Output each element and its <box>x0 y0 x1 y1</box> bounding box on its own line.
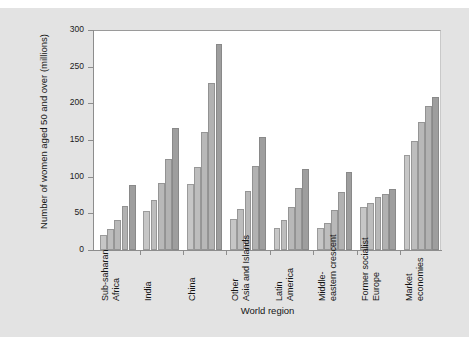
bar <box>172 128 179 250</box>
bar <box>252 166 259 250</box>
bar <box>295 188 302 250</box>
bar-group <box>187 30 223 250</box>
bar <box>107 229 114 250</box>
y-tick-label-100: 100 <box>58 172 84 181</box>
bar <box>411 141 418 250</box>
y-tick-label-wrap-300: 300 <box>56 25 84 35</box>
bar-group <box>317 30 353 250</box>
y-tick-label-wrap-200: 200 <box>56 98 84 108</box>
group-separator <box>183 250 184 255</box>
category-label-line: Middle- <box>317 234 328 301</box>
category-label-block: India <box>143 257 183 303</box>
x-axis-line <box>93 250 442 251</box>
bar <box>187 184 194 250</box>
category-label-block: LatinAmerica <box>274 257 314 303</box>
category-label: Sub-saharanAfrica <box>100 249 121 301</box>
category-label-line: Africa <box>111 249 122 301</box>
category-label: Middle-eastern crescent <box>317 234 338 301</box>
group-separator <box>270 250 271 255</box>
bar <box>194 167 201 250</box>
x-axis-title: World region <box>94 305 441 316</box>
bar <box>302 169 309 250</box>
y-axis-title: Number of women aged 50 and over (millio… <box>38 27 49 237</box>
category-label: Former socialistEurope <box>360 237 381 301</box>
category-label-line: India <box>143 281 154 301</box>
category-label-line: Latin <box>274 268 285 301</box>
group-separator <box>140 250 141 255</box>
bar-group <box>274 30 310 250</box>
category-label: India <box>143 281 154 301</box>
bar <box>274 228 281 250</box>
category-label-line: eastern crescent <box>327 234 338 301</box>
bar <box>389 189 396 250</box>
category-label-block: OtherAsia and Islands <box>230 257 270 303</box>
bar <box>208 83 215 250</box>
y-tick-label-wrap-50: 50 <box>56 208 84 218</box>
category-label-line: Other <box>230 235 241 301</box>
bar <box>100 235 107 250</box>
category-label-line: Sub-saharan <box>100 249 111 301</box>
y-tick-label-300: 300 <box>58 25 84 34</box>
category-label: Marketeconomies <box>404 257 425 301</box>
category-label-line: America <box>284 268 295 301</box>
category-label-line: Market <box>404 257 415 301</box>
y-tick-label-wrap-0: 0 <box>56 245 84 255</box>
bar <box>288 207 295 250</box>
bar-group <box>404 30 440 250</box>
category-label-block: China <box>187 257 227 303</box>
group-separator <box>226 250 227 255</box>
bar-group <box>143 30 179 250</box>
bar-group <box>360 30 396 250</box>
bar <box>143 211 150 250</box>
y-tick-label-150: 150 <box>58 135 84 144</box>
category-label-block: Former socialistEurope <box>360 257 400 303</box>
y-tick-label-250: 250 <box>58 62 84 71</box>
bar-chart-figure: 050100150200250300 Number of women aged … <box>0 8 469 337</box>
bar-group <box>100 30 136 250</box>
group-separator <box>313 250 314 255</box>
bar <box>281 220 288 250</box>
category-label: China <box>187 277 198 301</box>
category-label: OtherAsia and Islands <box>230 235 251 301</box>
bar <box>346 172 353 250</box>
bar <box>259 137 266 250</box>
y-tick-label-50: 50 <box>58 208 84 217</box>
bar <box>165 159 172 250</box>
y-tick-label-0: 0 <box>58 245 84 254</box>
bar <box>151 200 158 250</box>
bar <box>338 192 345 250</box>
category-label-line: economies <box>414 257 425 301</box>
category-label: LatinAmerica <box>274 268 295 301</box>
bar <box>425 106 432 250</box>
bars-layer <box>94 30 441 250</box>
y-tick-label-wrap-150: 150 <box>56 135 84 145</box>
category-label-block: Middle-eastern crescent <box>317 257 357 303</box>
y-tick-label-200: 200 <box>58 98 84 107</box>
category-label-line: China <box>187 277 198 301</box>
group-separator <box>357 250 358 255</box>
bar <box>216 44 223 250</box>
bar <box>122 206 129 250</box>
category-label-block: Sub-saharanAfrica <box>100 257 140 303</box>
bar <box>404 155 411 250</box>
bar <box>432 97 439 250</box>
category-label-block: Marketeconomies <box>404 257 444 303</box>
bar-group <box>230 30 266 250</box>
bar <box>382 194 389 250</box>
group-separator <box>400 250 401 255</box>
y-tick-label-wrap-100: 100 <box>56 172 84 182</box>
bar <box>158 183 165 250</box>
page-root: 050100150200250300 Number of women aged … <box>0 0 469 337</box>
category-label-line: Former socialist <box>360 237 371 301</box>
bar <box>201 132 208 250</box>
bar <box>114 220 121 250</box>
bar <box>418 122 425 250</box>
category-label-line: Asia and Islands <box>241 235 252 301</box>
y-tick-label-wrap-250: 250 <box>56 62 84 72</box>
bar <box>129 185 136 250</box>
category-label-line: Europe <box>371 237 382 301</box>
y-tick-0 <box>88 250 94 251</box>
